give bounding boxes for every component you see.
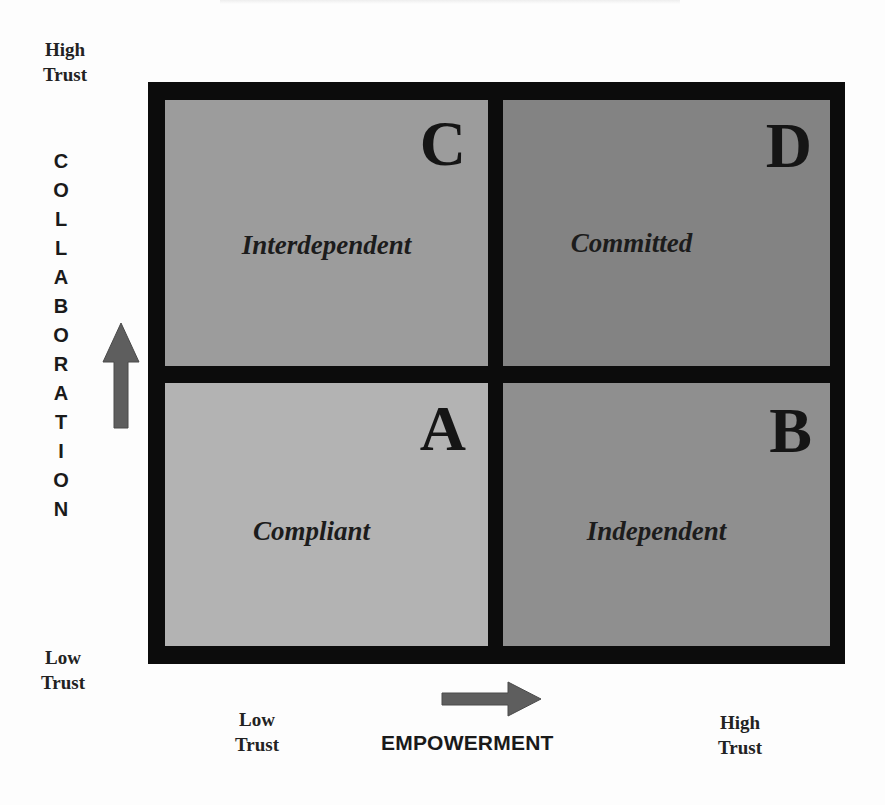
label-line: Trust [705,735,775,760]
vertical-axis-title-letter: O [44,176,78,205]
quadrant-name: Committed [503,228,830,259]
arrow-shape [442,682,541,716]
vertical-axis-title-letter: C [44,147,78,176]
label-line: Trust [30,62,100,87]
arrow-up-icon [100,318,146,432]
quadrant-d-committed: D Committed [503,100,830,366]
quadrant-letter: B [769,399,812,463]
quadrant-letter: A [420,397,466,461]
vertical-axis-title-letter: L [44,234,78,263]
quadrant-c-interdependent: C Interdependent [165,100,488,366]
vertical-axis-low-label: Low Trust [28,645,98,695]
label-line: Trust [28,670,98,695]
label-line: Low [222,707,292,732]
vertical-axis-title-letter: T [44,408,78,437]
quadrant-letter: D [766,114,812,178]
vertical-axis-title-letter: A [44,263,78,292]
vertical-axis-title-letter: A [44,379,78,408]
label-line: High [30,37,100,62]
vertical-axis-high-label: High Trust [30,37,100,87]
vertical-axis-title-letter: O [44,466,78,495]
arrow-shape [103,323,139,428]
horizontal-axis-high-label: High Trust [705,710,775,760]
quadrant-name: Independent [503,516,830,547]
label-line: Low [28,645,98,670]
quadrant-a-compliant: A Compliant [165,383,488,646]
quadrant-letter: C [420,112,466,176]
matrix-grid: C Interdependent D Committed A Compliant… [148,82,845,664]
quadrant-name: Interdependent [165,230,488,261]
horizontal-axis-title: EMPOWERMENT [381,731,554,755]
trust-matrix-diagram: High Trust COLLABORATION Low Trust C Int… [0,0,885,805]
quadrant-b-independent: B Independent [503,383,830,646]
vertical-axis-title-letter: B [44,292,78,321]
horizontal-axis-low-label: Low Trust [222,707,292,757]
vertical-axis-title-letter: N [44,495,78,524]
vertical-axis-title-letter: O [44,321,78,350]
label-line: Trust [222,732,292,757]
cropped-title-remnant [220,0,680,4]
vertical-axis-title-letter: I [44,437,78,466]
vertical-axis-title-letter: R [44,350,78,379]
arrow-right-icon [438,678,546,720]
quadrant-name: Compliant [165,516,488,547]
vertical-axis-title-letter: L [44,205,78,234]
label-line: High [705,710,775,735]
vertical-axis-title: COLLABORATION [44,147,78,524]
